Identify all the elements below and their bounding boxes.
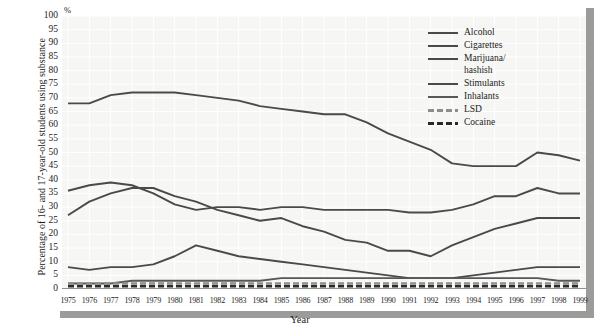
x-tick-label: 1986 [295,296,310,305]
legend-swatch-icon [428,78,458,90]
x-tick-label: 1997 [530,296,545,305]
x-tick-label: 1992 [423,296,438,305]
x-tick-label: 1989 [359,296,374,305]
x-tick-label: 1979 [146,296,161,305]
legend-item-label: Inhalants [464,91,499,103]
x-axis-title: Year [0,314,600,325]
x-tick-label: 1980 [167,296,182,305]
legend-item[interactable]: Cigarettes [428,40,568,52]
legend-swatch-icon [428,53,458,65]
x-tick-label: 1998 [551,296,566,305]
x-tick-label: 1981 [188,296,203,305]
x-axis-ticks: 1975197619771978197919801981198219831984… [62,296,586,310]
legend-item-label: Marijuana/ hashish [464,53,506,76]
x-tick-label: 1999 [572,296,587,305]
x-tick-label: 1977 [103,296,118,305]
legend-swatch-icon [428,104,458,116]
legend-item[interactable]: Marijuana/ hashish [428,53,568,77]
legend-swatch-icon [428,40,458,52]
percent-symbol: % [64,5,71,15]
x-tick-label: 1987 [316,296,331,305]
y-tick-label: 100 [18,11,58,21]
y-axis-title: Percentage of 16- and 17-year-old studen… [35,27,49,287]
x-tick-label: 1995 [487,296,502,305]
chart-legend: AlcoholCigarettesMarijuana/ hashishStimu… [428,27,568,130]
x-tick-label: 1978 [124,296,139,305]
x-tick-label: 1975 [60,296,75,305]
x-tick-label: 1985 [274,296,289,305]
x-tick-label: 1984 [252,296,267,305]
legend-item[interactable]: Cocaine [428,117,568,129]
legend-item-label: Alcohol [464,27,495,39]
legend-item[interactable]: Inhalants [428,91,568,103]
x-tick-label: 1990 [380,296,395,305]
legend-item-label: LSD [464,104,482,116]
legend-item-label: Cocaine [464,117,495,129]
x-tick-label: 1996 [508,296,523,305]
x-tick-label: 1976 [82,296,97,305]
x-tick-label: 1993 [444,296,459,305]
x-tick-label: 1983 [231,296,246,305]
x-tick-label: 1988 [338,296,353,305]
chart-page: % 10095908580757065605550454035302520151… [0,0,600,333]
legend-swatch-icon [428,91,458,103]
panel-shadow-right [586,8,594,318]
legend-item[interactable]: Alcohol [428,27,568,39]
legend-swatch-icon [428,117,458,129]
legend-swatch-icon [428,27,458,39]
x-tick-label: 1994 [466,296,481,305]
legend-item[interactable]: Stimulants [428,78,568,90]
x-tick-label: 1982 [210,296,225,305]
x-tick-label: 1991 [402,296,417,305]
legend-item[interactable]: LSD [428,104,568,116]
legend-item-label: Stimulants [464,78,505,90]
legend-item-label: Cigarettes [464,40,503,52]
